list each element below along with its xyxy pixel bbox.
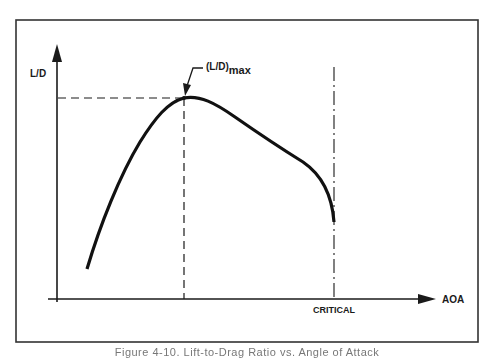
x-axis-label: AOA bbox=[442, 294, 464, 305]
x-axis-arrow-icon bbox=[418, 294, 436, 304]
ld-curve bbox=[87, 97, 334, 269]
figure: L/D AOA (L/D)max CRITICAL Figure 4-10. L… bbox=[0, 0, 494, 358]
peak-label: (L/D)max bbox=[206, 61, 252, 76]
peak-annotation-arrow-icon bbox=[183, 83, 191, 96]
critical-label: CRITICAL bbox=[313, 305, 355, 315]
y-axis-label: L/D bbox=[30, 68, 46, 79]
figure-caption: Figure 4-10. Lift-to-Drag Ratio vs. Angl… bbox=[0, 346, 494, 358]
peak-annotation-leader bbox=[187, 68, 203, 86]
chart-svg: L/D AOA (L/D)max CRITICAL bbox=[0, 0, 494, 358]
peak-label-sub: max bbox=[229, 64, 252, 76]
peak-label-base: (L/D) bbox=[206, 61, 229, 72]
peak-point bbox=[182, 96, 186, 100]
y-axis-arrow-icon bbox=[52, 44, 62, 62]
